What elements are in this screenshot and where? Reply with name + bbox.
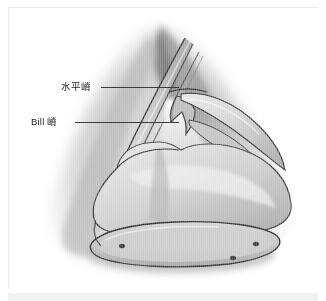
nostril-ellipse	[87, 222, 280, 274]
suture-dot	[119, 244, 125, 248]
figure-page: 水平嵴 Bill 嵴	[0, 0, 326, 301]
illustration-canvas	[9, 8, 319, 290]
label-bill-crest: Bill 嵴	[31, 116, 58, 127]
bottom-band	[8, 293, 318, 301]
leader-line-bill-crest	[75, 122, 179, 123]
figure-frame: 水平嵴 Bill 嵴	[8, 7, 318, 289]
leader-line-horizontal-crest	[101, 87, 179, 88]
label-horizontal-crest: 水平嵴	[61, 81, 92, 92]
suture-dot	[253, 242, 259, 246]
suture-dot	[230, 256, 236, 260]
anatomical-illustration: 水平嵴 Bill 嵴	[9, 8, 319, 290]
